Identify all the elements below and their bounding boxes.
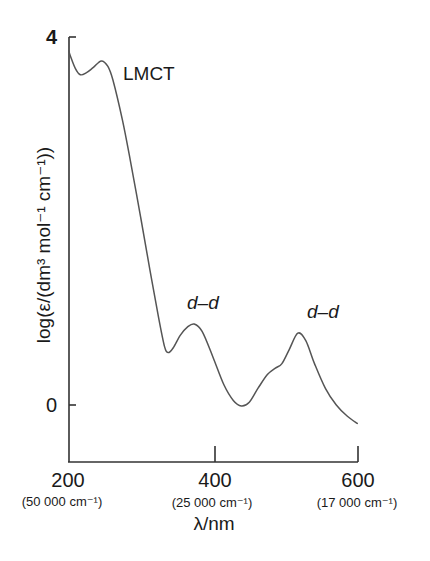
y-tick-label-0: 0 [46, 394, 57, 416]
axes [68, 37, 358, 462]
y-axis-title: log(ε/(dm³ mol⁻¹ cm⁻¹)) [33, 147, 54, 343]
absorption-spectrum-chart: 4 0 log(ε/(dm³ mol⁻¹ cm⁻¹)) 200 400 600 … [0, 0, 430, 561]
y-tick-label-4: 4 [46, 26, 58, 48]
x-tick-label-200: 200 [51, 469, 84, 491]
annotation-dd-1: d–d [187, 292, 220, 313]
annotation-lmct: LMCT [123, 63, 175, 84]
x-sublabel-400: (25 000 cm⁻¹) [172, 495, 253, 510]
x-sublabel-600: (17 000 cm⁻¹) [317, 495, 398, 510]
x-tick-label-400: 400 [198, 469, 231, 491]
x-axis-title: λ/nm [193, 513, 234, 534]
x-sublabel-200: (50 000 cm⁻¹) [22, 494, 103, 509]
annotation-dd-2: d–d [307, 301, 340, 322]
spectrum-line [69, 51, 358, 424]
x-tick-label-600: 600 [341, 469, 374, 491]
